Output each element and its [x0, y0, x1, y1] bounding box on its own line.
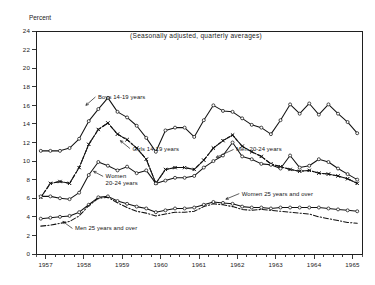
- y-tick-label: 6: [26, 194, 30, 201]
- data-point-marker: [174, 126, 177, 129]
- data-point-marker: [221, 201, 224, 204]
- data-point-marker: [269, 163, 272, 166]
- data-point-marker: [97, 108, 100, 111]
- data-point-marker: [135, 172, 138, 175]
- data-point-marker: [289, 154, 292, 157]
- data-point-marker: [78, 211, 81, 214]
- x-tick-label: 1961: [192, 261, 207, 268]
- data-point-marker: [356, 178, 359, 181]
- data-point-marker: [87, 120, 90, 123]
- y-tick-label: 22: [23, 46, 31, 53]
- data-point-marker: [260, 162, 263, 165]
- series-annotation-label: Boys 14-19 years: [98, 94, 145, 100]
- y-tick-label: 4: [26, 213, 30, 220]
- data-point-marker: [356, 132, 359, 135]
- unemployment-rate-line-chart: Percent (Seasonally adjusted, quarterly …: [0, 0, 375, 285]
- data-point-marker: [193, 135, 196, 138]
- data-point-marker: [135, 205, 138, 208]
- x-tick-label: 1963: [269, 261, 284, 268]
- data-point-marker: [49, 216, 52, 219]
- data-point-marker: [317, 206, 320, 209]
- data-point-marker: [250, 123, 253, 126]
- data-point-marker: [58, 215, 61, 218]
- x-tick-label: 1962: [230, 261, 245, 268]
- data-point-marker: [183, 176, 186, 179]
- data-point-marker: [39, 149, 42, 152]
- series-annotation-label: Women 25 years and over: [242, 191, 313, 197]
- y-tick-label: 14: [23, 120, 31, 127]
- data-point-marker: [135, 124, 138, 127]
- chart-figure: Percent (Seasonally adjusted, quarterly …: [0, 0, 375, 285]
- data-point-marker: [346, 121, 349, 124]
- data-point-marker: [260, 126, 263, 129]
- data-point-marker: [260, 206, 263, 209]
- data-point-marker: [183, 126, 186, 129]
- data-point-marker: [58, 197, 61, 200]
- data-point-marker: [212, 160, 215, 163]
- data-point-marker: [145, 169, 148, 172]
- data-point-marker: [126, 165, 129, 168]
- data-point-marker: [183, 207, 186, 210]
- data-point-marker: [356, 210, 359, 213]
- data-point-marker: [337, 167, 340, 170]
- data-point-marker: [327, 207, 330, 210]
- data-point-marker: [212, 104, 215, 107]
- data-point-marker: [308, 206, 311, 209]
- data-point-marker: [241, 155, 244, 158]
- y-tick-label: 10: [23, 157, 31, 164]
- data-point-marker: [241, 205, 244, 208]
- data-point-marker: [337, 112, 340, 115]
- data-point-marker: [97, 161, 100, 164]
- data-point-marker: [39, 195, 42, 198]
- data-point-marker: [154, 211, 157, 214]
- x-tick-label: 1965: [345, 261, 360, 268]
- data-point-marker: [68, 147, 71, 150]
- data-point-marker: [87, 174, 90, 177]
- data-point-marker: [126, 116, 129, 119]
- data-point-marker: [164, 179, 167, 182]
- data-point-marker: [78, 191, 81, 194]
- data-point-marker: [308, 164, 311, 167]
- data-point-marker: [231, 202, 234, 205]
- y-tick-label: 8: [26, 176, 30, 183]
- data-point-marker: [346, 209, 349, 212]
- y-tick-label: 20: [23, 64, 31, 71]
- data-point-marker: [174, 176, 177, 179]
- data-point-marker: [58, 149, 61, 152]
- data-point-marker: [154, 182, 157, 185]
- series-annotation-label: Men 20-24 years: [236, 146, 282, 152]
- data-point-marker: [174, 207, 177, 210]
- x-tick-label: 1958: [77, 261, 92, 268]
- y-tick-label: 24: [23, 27, 31, 34]
- data-point-marker: [164, 209, 167, 212]
- data-point-marker: [327, 103, 330, 106]
- chart-background: [0, 0, 375, 285]
- data-point-marker: [145, 136, 148, 139]
- data-point-marker: [145, 207, 148, 210]
- data-point-marker: [126, 202, 129, 205]
- data-point-marker: [289, 103, 292, 106]
- y-tick-label: 16: [23, 102, 31, 109]
- data-point-marker: [250, 158, 253, 161]
- data-point-marker: [231, 110, 234, 113]
- data-point-marker: [116, 110, 119, 113]
- series-annotation-label: Girls 14-19 years: [132, 146, 179, 152]
- series-annotation-label: 20-24 years: [106, 180, 138, 186]
- data-point-marker: [49, 195, 52, 198]
- x-tick-label: 1960: [153, 261, 168, 268]
- x-tick-label: 1957: [38, 261, 53, 268]
- data-point-marker: [298, 112, 301, 115]
- data-point-marker: [279, 119, 282, 122]
- y-axis-title: Percent: [29, 14, 51, 21]
- data-point-marker: [68, 214, 71, 217]
- data-point-marker: [193, 174, 196, 177]
- data-point-marker: [269, 207, 272, 210]
- data-point-marker: [346, 173, 349, 176]
- series-annotation-label: Men 25 years and over: [75, 225, 137, 231]
- data-point-marker: [317, 158, 320, 161]
- data-point-marker: [164, 129, 167, 132]
- x-tick-label: 1964: [307, 261, 322, 268]
- data-point-marker: [241, 117, 244, 120]
- y-tick-label: 0: [26, 250, 30, 257]
- data-point-marker: [317, 113, 320, 116]
